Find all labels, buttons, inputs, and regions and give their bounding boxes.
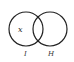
set-i-label: I <box>23 50 27 58</box>
element-x-label: x <box>18 25 23 34</box>
set-h-circle <box>33 12 67 46</box>
set-h-label: H <box>47 50 55 58</box>
venn-diagram: x I H <box>0 0 74 62</box>
